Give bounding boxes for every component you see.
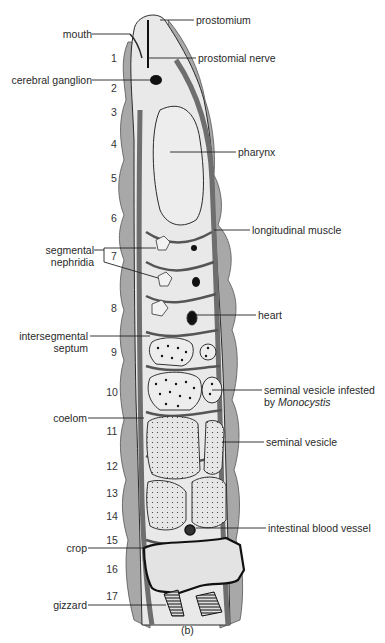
- intestinal-blood-vessel-shape: [185, 525, 195, 535]
- label-septum: septum: [19, 342, 88, 354]
- segment-number: 6: [106, 212, 122, 224]
- segment-number: 8: [106, 302, 122, 314]
- segment-number: 9: [106, 346, 122, 358]
- segment-number: 7: [106, 250, 122, 262]
- seminal-vesicle-11: [147, 416, 200, 479]
- segment-number: 11: [104, 425, 120, 437]
- segment-number: 2: [106, 82, 122, 94]
- seminal-vesicle-infested-9b: [200, 344, 216, 360]
- label-coelom: coelom: [53, 412, 87, 424]
- label-longitudinal-muscle: longitudinal muscle: [252, 224, 341, 236]
- label-crop: crop: [67, 542, 87, 554]
- label-segmental-nephridia: segmental nephridia: [46, 244, 94, 268]
- label-segmental: segmental: [46, 244, 94, 256]
- label-seminal-vesicle: seminal vesicle: [266, 436, 337, 448]
- segment-number: 17: [104, 590, 120, 602]
- label-gizzard: gizzard: [53, 599, 87, 611]
- label-heart: heart: [258, 309, 282, 321]
- segment-number: 4: [106, 138, 122, 150]
- label-intersegmental-septum: intersegmental septum: [19, 330, 88, 354]
- segment-number: 5: [106, 172, 122, 184]
- earthworm-dissection-diagram: [0, 0, 385, 643]
- label-by: by: [264, 396, 278, 408]
- segment-number: 10: [104, 386, 120, 398]
- label-intersegmental: intersegmental: [19, 330, 88, 342]
- segment-number: 1: [106, 52, 122, 64]
- seminal-vesicle-13b: [192, 477, 226, 528]
- label-seminal-vesicle-infested-line2: by Monocystis: [264, 396, 375, 408]
- seminal-vesicle-infested-10: [148, 372, 201, 410]
- cerebral-ganglion-shape: [150, 75, 162, 85]
- seminal-vesicle-13: [147, 480, 186, 529]
- label-seminal-vesicle-infested-line1: seminal vesicle infested: [264, 384, 375, 396]
- segment-number: 16: [104, 563, 120, 575]
- label-nephridia: nephridia: [46, 256, 94, 268]
- label-prostomial-nerve: prostomial nerve: [198, 52, 276, 64]
- label-pharynx: pharynx: [238, 146, 275, 158]
- label-monocystis: Monocystis: [278, 396, 331, 408]
- label-cerebral-ganglion: cerebral ganglion: [11, 74, 92, 86]
- segment-number: 13: [104, 487, 120, 499]
- segment-number: 3: [106, 106, 122, 118]
- segment-number: 12: [104, 460, 120, 472]
- label-intestinal-blood-vessel: intestinal blood vessel: [268, 522, 371, 534]
- pharynx-shape: [153, 106, 203, 225]
- label-prostomium: prostomium: [196, 14, 251, 26]
- seminal-vesicle-11b: [204, 420, 224, 474]
- segment-number: 15: [104, 534, 120, 546]
- figure-caption: (b): [181, 624, 194, 636]
- segment-number: 14: [104, 510, 120, 522]
- label-seminal-vesicle-infested: seminal vesicle infested by Monocystis: [264, 384, 375, 408]
- label-mouth: mouth: [63, 28, 92, 40]
